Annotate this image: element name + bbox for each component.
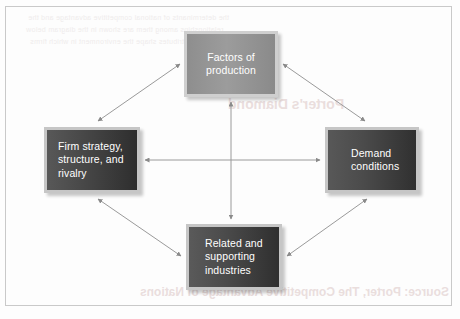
node-related-and-supporting-industries[interactable]: Related and supporting industries bbox=[186, 224, 282, 290]
node-firm-strategy-structure-rivalry[interactable]: Firm strategy, structure, and rivalry bbox=[44, 127, 140, 193]
node-related-line-3: industries bbox=[205, 264, 251, 278]
node-factors-line-1: Factors of bbox=[207, 51, 255, 65]
node-factors-of-production-body: Factors of production bbox=[187, 34, 275, 94]
node-demand-conditions[interactable]: Demand conditions bbox=[325, 127, 419, 193]
arrow-firm-factors bbox=[98, 64, 180, 121]
arrow-firm-related bbox=[98, 199, 181, 256]
node-factors-of-production[interactable]: Factors of production bbox=[184, 31, 278, 97]
node-demand-line-2: conditions bbox=[351, 160, 399, 174]
figure-porters-diamond: the determinants of national competitive… bbox=[0, 0, 460, 319]
node-firm-line-2: structure, and bbox=[58, 153, 124, 167]
arrow-factors-demand bbox=[283, 64, 365, 121]
node-firm-line-1: Firm strategy, bbox=[58, 140, 123, 154]
node-demand-line-1: Demand bbox=[351, 147, 391, 161]
node-related-body: Related and supporting industries bbox=[189, 227, 279, 287]
node-firm-line-3: rivalry bbox=[58, 167, 87, 181]
arrow-related-demand bbox=[287, 199, 367, 256]
node-demand-body: Demand conditions bbox=[328, 130, 416, 190]
node-factors-line-2: production bbox=[206, 64, 256, 78]
node-related-line-2: supporting bbox=[205, 250, 255, 264]
node-related-line-1: Related and bbox=[205, 237, 263, 251]
node-firm-body: Firm strategy, structure, and rivalry bbox=[47, 130, 137, 190]
